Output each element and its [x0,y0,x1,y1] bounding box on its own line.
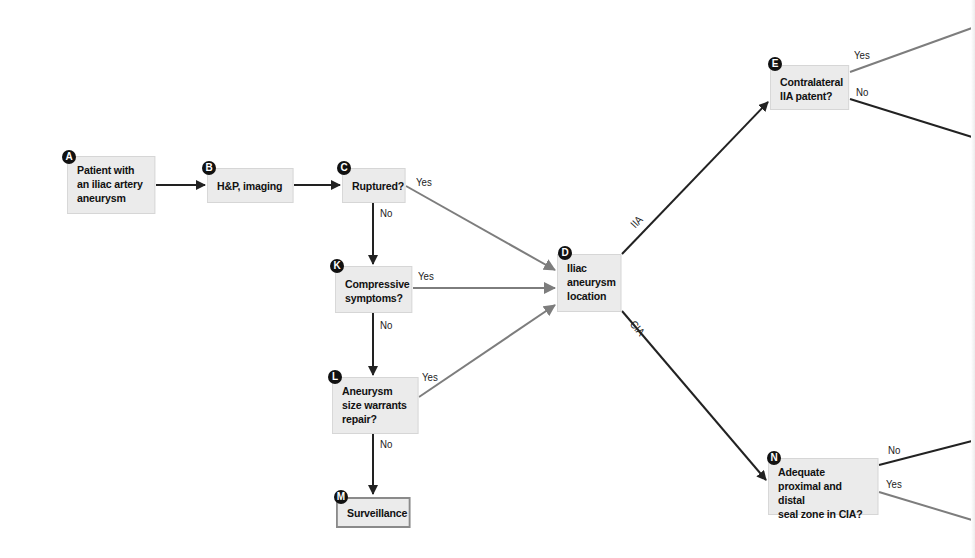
node-k-badge: K [330,259,344,273]
node-c-ruptured: Ruptured? [342,168,405,203]
arrow-l-to-d [419,305,555,397]
node-l-badge: L [328,370,342,384]
label-c-no: No [380,207,392,219]
arrow-d-to-n [622,311,766,480]
node-d-aneurysm-location: Iliac aneurysm location [557,254,621,312]
node-l-aneurysm-size: Aneurysm size warrants repair? [332,377,418,434]
node-n-text: Adequate proximal and distal seal zone i… [778,465,870,521]
node-b-hp-imaging: H&P, imaging [207,168,293,203]
node-c-text: Ruptured? [352,179,397,193]
node-d-badge: D [558,246,572,260]
node-m-badge: M [334,490,348,504]
label-l-no: No [380,438,392,450]
node-a-badge: A [62,150,76,164]
flowchart-canvas: Patient with an iliac artery aneurysm A … [0,0,975,558]
label-c-yes: Yes [416,176,432,188]
connector-n-yes [879,492,972,520]
label-e-yes: Yes [854,49,870,61]
node-d-text: Iliac aneurysm location [567,261,613,303]
node-m-surveillance: Surveillance [336,497,411,528]
page-edge-shadow [971,0,975,558]
connector-e-no [850,99,972,137]
node-c-badge: C [337,161,351,175]
arrow-c-to-d [406,186,555,270]
label-l-yes: Yes [422,371,438,383]
node-a-text: Patient with an iliac artery aneurysm [77,163,147,205]
label-n-no: No [888,444,900,456]
label-k-yes: Yes [418,270,434,282]
node-n-seal-zone: Adequate proximal and distal seal zone i… [768,458,878,515]
node-k-compressive-symptoms: Compressive symptoms? [335,266,412,313]
label-k-no: No [380,319,392,331]
node-l-text: Aneurysm size warrants repair? [342,384,410,426]
node-n-badge: N [767,451,781,465]
label-e-no: No [856,86,868,98]
node-m-text: Surveillance [347,506,401,520]
node-e-badge: E [768,57,782,71]
node-e-contralateral-iia: Contralateral IIA patent? [770,65,849,110]
node-a-patient: Patient with an iliac artery aneurysm [67,156,155,214]
node-b-badge: B [202,161,216,175]
node-e-text: Contralateral IIA patent? [780,75,841,103]
node-b-text: H&P, imaging [217,179,285,193]
node-k-text: Compressive symptoms? [345,277,404,305]
label-n-yes: Yes [886,478,902,490]
arrow-d-to-e [622,102,768,254]
